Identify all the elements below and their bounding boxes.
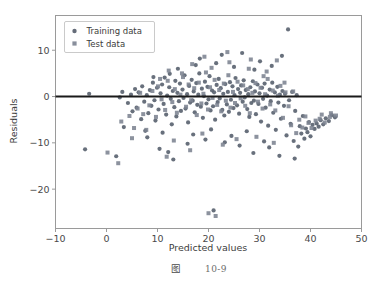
data-point	[197, 71, 201, 75]
data-point	[173, 87, 177, 91]
data-point	[247, 67, 251, 71]
data-point	[300, 126, 304, 130]
data-point	[305, 130, 309, 134]
y-tick-label: −10	[29, 137, 49, 148]
data-point	[308, 134, 312, 138]
data-point	[220, 53, 224, 57]
data-point	[173, 79, 177, 83]
data-point	[144, 128, 148, 132]
data-point	[166, 150, 170, 154]
data-point	[152, 98, 156, 102]
data-point	[172, 105, 176, 109]
data-point	[140, 84, 144, 88]
data-point	[215, 103, 219, 107]
data-point	[272, 141, 276, 145]
data-point	[188, 148, 192, 152]
data-point	[199, 101, 203, 105]
data-point	[215, 83, 219, 87]
data-point	[207, 211, 211, 215]
data-point	[287, 104, 291, 108]
data-point	[146, 111, 150, 115]
data-point	[286, 27, 290, 31]
data-point	[299, 131, 303, 135]
data-point	[229, 134, 233, 138]
data-point	[130, 109, 134, 113]
data-point	[151, 81, 155, 85]
data-point	[267, 145, 271, 149]
data-point	[284, 90, 288, 94]
data-point	[282, 81, 286, 85]
data-point	[214, 214, 218, 218]
data-point	[203, 80, 207, 84]
data-point	[217, 88, 221, 92]
data-point	[259, 86, 263, 90]
data-point	[258, 59, 262, 63]
data-point	[167, 85, 171, 89]
legend[interactable]: Training dataTest data	[65, 22, 155, 53]
data-point	[303, 114, 307, 118]
data-point	[177, 99, 181, 103]
figure-caption-number: 10-9	[205, 264, 227, 274]
data-point	[136, 107, 140, 111]
data-point	[166, 79, 170, 83]
data-point	[176, 67, 180, 71]
data-point	[174, 114, 178, 118]
data-point	[219, 109, 223, 113]
data-point	[195, 113, 199, 117]
data-point	[170, 122, 174, 126]
data-point	[232, 65, 236, 69]
data-point	[246, 87, 250, 91]
data-point	[163, 108, 167, 112]
data-point	[227, 110, 231, 114]
data-point	[273, 108, 277, 112]
data-point	[160, 97, 164, 101]
data-point	[222, 113, 226, 117]
data-point	[114, 154, 118, 158]
data-point	[209, 127, 213, 131]
data-point	[132, 126, 136, 130]
data-point	[262, 74, 266, 78]
data-point	[292, 139, 296, 143]
data-point	[249, 57, 253, 61]
data-point	[160, 82, 164, 86]
residual-scatter-plot: −1001020304050 100−10−20 Training dataTe…	[0, 0, 385, 285]
data-point	[280, 54, 284, 58]
data-point	[189, 98, 193, 102]
data-point	[83, 147, 87, 151]
data-point	[235, 137, 239, 141]
data-point	[270, 64, 274, 68]
data-point	[282, 104, 286, 108]
data-point	[302, 137, 306, 141]
data-point	[241, 83, 245, 87]
data-point	[185, 142, 189, 146]
data-point	[207, 74, 211, 78]
data-point	[293, 109, 297, 113]
data-point	[243, 104, 247, 108]
data-point	[240, 51, 244, 55]
data-point	[195, 103, 199, 107]
legend-item-label[interactable]: Test data	[86, 39, 126, 49]
data-point	[242, 78, 246, 82]
data-point	[184, 105, 188, 109]
data-point	[276, 100, 280, 104]
data-point	[278, 84, 282, 88]
data-point	[287, 98, 291, 102]
data-point	[130, 136, 134, 140]
data-point	[250, 91, 254, 95]
data-point	[171, 157, 175, 161]
data-point	[198, 56, 202, 60]
data-point	[284, 133, 288, 137]
data-point	[304, 126, 308, 130]
data-point	[262, 139, 266, 143]
data-point	[210, 66, 214, 70]
data-point	[224, 99, 228, 103]
data-point	[252, 99, 256, 103]
data-point	[226, 90, 230, 94]
legend-marker-circle	[72, 29, 76, 33]
data-point	[200, 87, 204, 91]
legend-item-label[interactable]: Training data	[86, 26, 142, 36]
data-point	[277, 154, 281, 158]
data-point	[228, 80, 232, 84]
data-point	[266, 77, 270, 81]
data-point	[291, 89, 295, 93]
